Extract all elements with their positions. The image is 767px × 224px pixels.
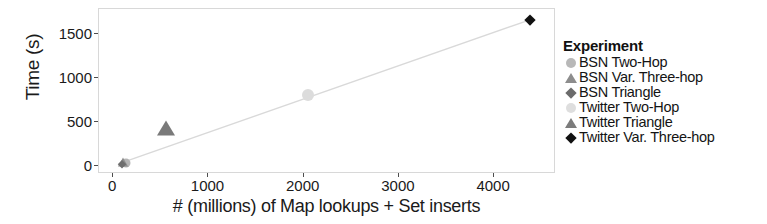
legend-item[interactable]: BSN Triangle xyxy=(563,85,767,100)
legend-item-label: Twitter Two-Hop xyxy=(579,100,679,115)
scatter-chart-figure: Time (s) 050010001500 01000200030004000 … xyxy=(0,0,767,224)
plot-panel xyxy=(98,8,555,173)
x-tick-mark xyxy=(493,173,494,177)
legend-key-diamond-icon xyxy=(563,130,578,145)
legend-triangle-icon xyxy=(565,73,577,83)
legend-item-label: BSN Var. Three-hop xyxy=(579,70,703,85)
y-tick-mark xyxy=(94,165,98,166)
legend-item[interactable]: Twitter Triangle xyxy=(563,115,767,130)
y-tick-label: 500 xyxy=(46,114,92,129)
trend-line xyxy=(99,9,554,172)
legend-key-triangle-icon xyxy=(563,115,578,130)
legend-key-circle-icon xyxy=(563,100,578,115)
x-tick-mark xyxy=(303,173,304,177)
x-tick-label: 4000 xyxy=(476,178,509,193)
legend-entries: BSN Two-HopBSN Var. Three-hopBSN Triangl… xyxy=(563,55,767,145)
legend-item-label: BSN Triangle xyxy=(579,85,661,100)
x-axis-tick-labels: 01000200030004000 xyxy=(98,173,555,193)
legend-item[interactable]: Twitter Var. Three-hop xyxy=(563,130,767,145)
legend-item[interactable]: BSN Two-Hop xyxy=(563,55,767,70)
y-tick-mark xyxy=(94,121,98,122)
legend-triangle-icon xyxy=(565,118,577,128)
legend-key-circle-icon xyxy=(563,55,578,70)
y-tick-label: 1500 xyxy=(46,26,92,41)
x-tick-label: 0 xyxy=(108,178,116,193)
y-tick-mark xyxy=(94,33,98,34)
legend-item-label: Twitter Triangle xyxy=(579,115,673,130)
legend-item-label: Twitter Var. Three-hop xyxy=(579,130,715,145)
legend-circle-icon xyxy=(566,103,576,113)
legend-key-triangle-icon xyxy=(563,70,578,85)
legend-item[interactable]: Twitter Two-Hop xyxy=(563,100,767,115)
legend-diamond-icon xyxy=(567,89,575,97)
data-point-circle xyxy=(302,89,314,101)
y-tick-label: 0 xyxy=(46,158,92,173)
y-tick-mark xyxy=(94,77,98,78)
data-point-triangle xyxy=(157,121,175,136)
legend-circle-icon xyxy=(566,58,576,68)
legend-diamond-icon xyxy=(567,134,575,142)
x-tick-label: 3000 xyxy=(381,178,414,193)
x-tick-mark xyxy=(112,173,113,177)
x-tick-mark xyxy=(207,173,208,177)
x-tick-label: 2000 xyxy=(286,178,319,193)
legend-title: Experiment xyxy=(563,38,767,54)
legend-item-label: BSN Two-Hop xyxy=(579,55,667,70)
legend-item[interactable]: BSN Var. Three-hop xyxy=(563,70,767,85)
data-point-diamond xyxy=(119,161,125,167)
y-tick-label: 1000 xyxy=(46,70,92,85)
x-tick-mark xyxy=(398,173,399,177)
y-axis-tick-labels: 050010001500 xyxy=(44,0,92,224)
legend-key-diamond-icon xyxy=(563,85,578,100)
legend: Experiment BSN Two-HopBSN Var. Three-hop… xyxy=(563,38,767,145)
x-tick-label: 1000 xyxy=(191,178,224,193)
x-axis-title: # (millions) of Map lookups + Set insert… xyxy=(98,196,555,217)
y-axis-title: Time (s) xyxy=(22,12,44,122)
data-point-diamond xyxy=(526,17,534,25)
